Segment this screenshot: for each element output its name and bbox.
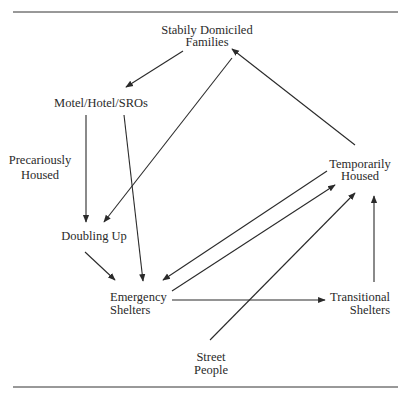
node-label: Motel/Hotel/SROs — [54, 96, 148, 110]
arrow-stably-to-doubling — [104, 58, 232, 222]
node-label: Transitional — [330, 290, 390, 304]
arrow-doubling-to-emergency — [85, 252, 115, 280]
node-label: Housed — [341, 169, 380, 183]
node-precariously-housed: Precariously Housed — [9, 153, 72, 182]
node-stably-domiciled-families: Stabily Domiciled Families — [161, 23, 253, 49]
node-temporarily-housed: Temporarily Housed — [329, 157, 391, 183]
node-label: Doubling Up — [61, 229, 127, 243]
node-label: Housed — [21, 168, 60, 182]
node-street-people: Street People — [194, 350, 228, 377]
diagram-canvas: Stabily Domiciled Families Motel/Hotel/S… — [0, 0, 405, 393]
arrow-temporarily-to-stably — [232, 49, 355, 145]
arrow-stably-to-motel — [126, 51, 183, 87]
node-transitional-shelters: Transitional Shelters — [330, 290, 390, 317]
arrow-motel-to-emergency — [124, 115, 143, 281]
node-label: Shelters — [350, 303, 390, 317]
node-doubling-up: Doubling Up — [61, 229, 127, 243]
arrow-street-to-temporarily — [210, 193, 355, 340]
node-emergency-shelters: Emergency Shelters — [110, 290, 167, 317]
node-motel-hotel-sros: Motel/Hotel/SROs — [54, 96, 148, 110]
arrow-temporarily-to-emergency — [163, 171, 327, 280]
node-label: Precariously — [9, 153, 72, 167]
node-label: Emergency — [110, 290, 167, 304]
node-label: Street — [196, 350, 226, 364]
node-label: Families — [185, 35, 228, 49]
node-label: Shelters — [110, 303, 150, 317]
node-label: People — [194, 363, 228, 377]
flow-diagram: Stabily Domiciled Families Motel/Hotel/S… — [0, 0, 405, 393]
